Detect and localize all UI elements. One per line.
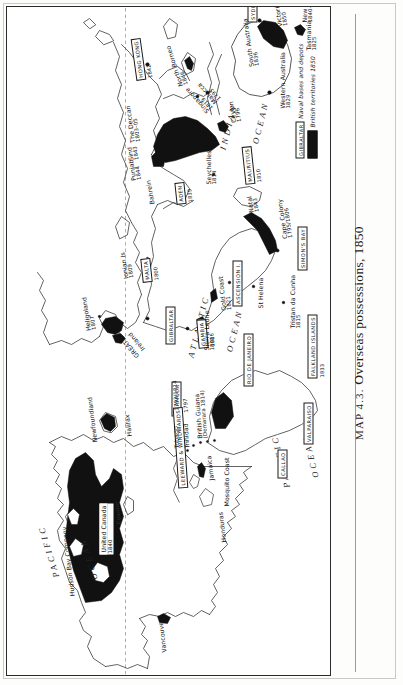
caption-title: Overseas possessions, 1850 (351, 226, 366, 385)
map-page: PACIFIC OCEAN INDIAN OCEAN ATLANTIC OCEA… (0, 0, 403, 685)
naval-base-mauritius: MAURITIUS 1810 (234, 145, 263, 186)
territory-trinidad-date: 1797 (183, 398, 189, 412)
caption-rail: MAP 4.3. Overseas possessions, 1850 (339, 0, 401, 685)
territory-seychelles: Seychelles 1814 (206, 151, 218, 185)
territory-tristan-da-cunha: Tristan da Cunha 1815 (290, 275, 302, 329)
map-frame: PACIFIC OCEAN INDIAN OCEAN ATLANTIC OCEA… (6, 6, 331, 676)
naval-base-label: RIO DE JANEIRO (244, 333, 253, 386)
map-legend: GIBRALTAR Naval bases and depots British… (296, 43, 320, 158)
territory-united-canada: United Canada 1840 (100, 503, 114, 554)
naval-base-callao: CALLAO (270, 450, 289, 479)
naval-base-rio-de-janeiro: RIO DE JANEIRO (236, 333, 255, 386)
naval-base-date: 1833 (319, 314, 325, 378)
naval-base-label: GIBRALTAR (166, 307, 175, 345)
naval-base-label: MALTA (141, 258, 153, 283)
territory-st-helena: St Helena (258, 278, 264, 309)
legend-naval-text: Naval bases and depots (297, 43, 304, 118)
naval-base-malta: MALTA 1800 (132, 257, 159, 284)
legend-row-naval-bases: GIBRALTAR Naval bases and depots (296, 43, 305, 158)
legend-territory-text: British territories 1850 (309, 56, 316, 128)
naval-base-label: MAURITIUS (242, 146, 255, 185)
territory-sierra-leone: Sierra Leone 1808 (204, 310, 216, 350)
naval-base-label: VALPARAISO (304, 403, 313, 445)
map-caption: MAP 4.3. Overseas possessions, 1850 (351, 23, 385, 643)
territory-mosquito-coast: Mosquito Coast (224, 457, 237, 506)
territory-new-zealand: New Zealand 1840–41 (302, 6, 314, 23)
legend-territory-swatch (307, 131, 317, 159)
naval-base-label: ADEN (175, 182, 186, 205)
naval-base-aden: ADEN 1839 (166, 181, 193, 205)
naval-base-label: ASCENSION I. (233, 260, 242, 306)
naval-base-label: FALKLAND ISLANDS (308, 314, 317, 378)
caption-number: MAP 4.3. (353, 388, 365, 439)
naval-base-label: SIMON'S BAY (298, 226, 307, 270)
naval-base-label: CALLAO (278, 450, 287, 479)
naval-base-falkland-islands: FALKLAND ISLANDS 1833 (300, 314, 325, 378)
map-canvas: PACIFIC OCEAN INDIAN OCEAN ATLANTIC OCEA… (8, 7, 331, 675)
legend-row-territories: British territories 1850 (307, 43, 317, 158)
naval-base-gibraltar: GIBRALTAR (158, 307, 177, 345)
territory-natal: Natal 1843 (246, 195, 260, 213)
territory-western-australia: Western Australia 1829 (280, 52, 292, 108)
legend-naval-key: GIBRALTAR (296, 122, 305, 159)
naval-base-valparaiso: VALPARAISO (296, 403, 315, 445)
territory-victoria: Victoria 1850 (274, 6, 289, 27)
territory-sind: Sind 1843 (127, 146, 141, 162)
